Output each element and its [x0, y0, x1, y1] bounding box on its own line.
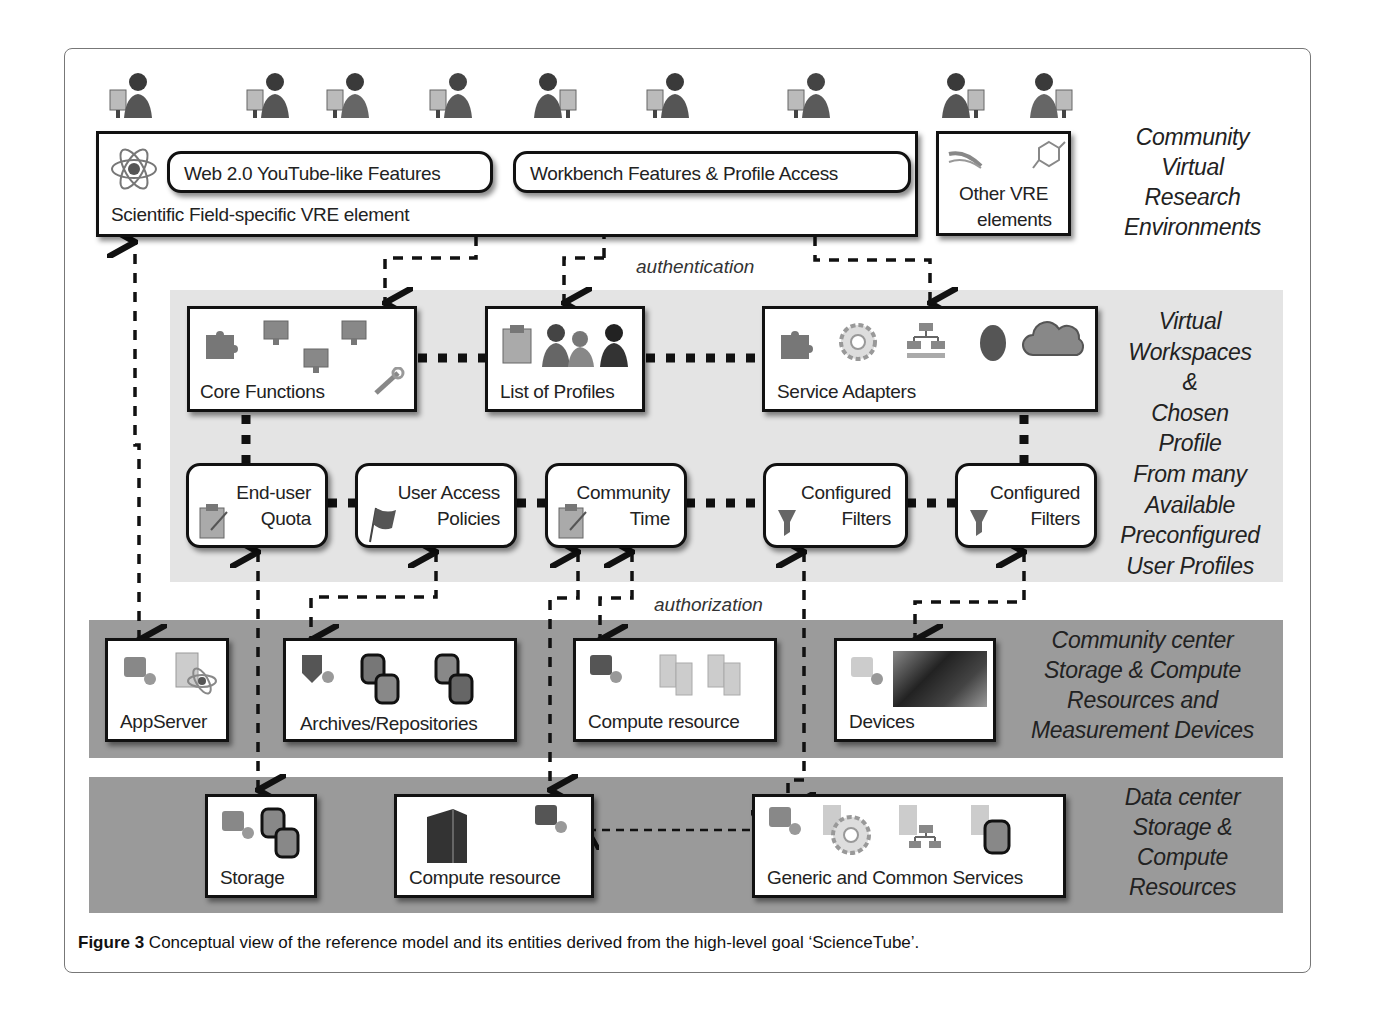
clipboard-icon — [556, 502, 590, 542]
monitor-icon — [340, 319, 370, 349]
puzzle-icon — [202, 325, 246, 361]
other-vre-line1: Other VRE — [959, 183, 1048, 205]
side-label-line: Storage & — [1090, 812, 1275, 842]
community-vre-side-label: Community Virtual Research Environments — [1100, 122, 1285, 242]
configured-filters-box-2[interactable]: Configured Filters — [955, 463, 1097, 548]
generic-common-services-box[interactable]: Generic and Common Services — [752, 794, 1066, 898]
figure-label: Figure 3 — [78, 933, 144, 952]
side-label-line: Storage & Compute — [1010, 655, 1275, 685]
community-time-box[interactable]: Community Time — [545, 463, 687, 548]
authentication-label: authentication — [636, 256, 754, 278]
archives-repositories-box[interactable]: Archives/Repositories — [283, 638, 517, 742]
side-label-line: User Profiles — [1100, 551, 1280, 582]
generic-common-services-label: Generic and Common Services — [767, 867, 1023, 889]
other-vre-line2: elements — [977, 209, 1052, 231]
shield-plugin-icon — [298, 651, 342, 689]
side-label-line: Measurement Devices — [1010, 715, 1275, 745]
end-user-quota-line2: Quota — [261, 508, 311, 530]
community-compute-resource-box[interactable]: Compute resource — [573, 638, 777, 742]
scientific-vre-element-box[interactable]: Web 2.0 YouTube-like Features Workbench … — [96, 131, 918, 237]
side-label-line: Virtual — [1100, 306, 1280, 337]
scientific-vre-element-label: Scientific Field-specific VRE element — [111, 204, 409, 226]
side-label-line: From many — [1100, 459, 1280, 490]
clipboard-icon — [500, 323, 536, 365]
user-access-policies-box[interactable]: User Access Policies — [355, 463, 517, 548]
side-label-line: Profile — [1100, 428, 1280, 459]
user-icon — [245, 70, 293, 120]
dna-icon — [947, 148, 983, 170]
side-label-line: Research — [1100, 182, 1285, 212]
end-user-quota-box[interactable]: End-user Quota — [186, 463, 328, 548]
server-plugin-icon — [120, 653, 160, 689]
user-icon — [530, 70, 578, 120]
server-tower-icon — [423, 807, 473, 865]
web20-features-label: Web 2.0 YouTube-like Features — [184, 163, 440, 185]
side-label-line: & — [1100, 367, 1280, 398]
funnel-icon — [776, 508, 798, 538]
server-plugin-icon — [765, 803, 805, 839]
list-of-profiles-label: List of Profiles — [500, 381, 615, 403]
configured-filters-1-line1: Configured — [801, 482, 891, 504]
community-time-line1: Community — [577, 482, 670, 504]
side-label-line: Resources and — [1010, 685, 1275, 715]
core-functions-box[interactable]: Core Functions — [187, 306, 417, 412]
other-vre-elements-box[interactable]: Other VRE elements — [936, 131, 1071, 236]
devices-label: Devices — [849, 711, 914, 733]
telescope-image — [893, 651, 987, 707]
virtual-workspaces-side-label: Virtual Workspaces & Chosen Profile From… — [1100, 306, 1280, 581]
user-icon — [938, 70, 986, 120]
server-cluster-icon — [658, 653, 698, 697]
funnel-icon — [968, 508, 990, 538]
side-label-line: Resources — [1090, 872, 1275, 902]
data-center-side-label: Data center Storage & Compute Resources — [1090, 782, 1275, 902]
core-functions-label: Core Functions — [200, 381, 325, 403]
server-plugin-icon — [218, 807, 258, 843]
server-plugin-icon — [531, 801, 571, 837]
community-time-line2: Time — [630, 508, 670, 530]
clipboard-icon — [197, 502, 231, 542]
workbench-features-box[interactable]: Workbench Features & Profile Access — [513, 151, 911, 193]
server-plugin-icon — [586, 651, 630, 689]
monitor-icon — [262, 319, 292, 349]
database-icon — [432, 651, 478, 707]
atom-icon — [109, 144, 159, 194]
side-label-line: Workspaces — [1100, 337, 1280, 368]
side-label-line: Community — [1100, 122, 1285, 152]
monitor-icon — [302, 347, 332, 377]
user-icon — [786, 70, 834, 120]
device-plugin-icon — [847, 653, 891, 691]
configured-filters-2-line2: Filters — [1030, 508, 1080, 530]
tools-icon — [372, 367, 406, 397]
database-icon — [258, 805, 304, 861]
side-label-line: Chosen — [1100, 398, 1280, 429]
datacenter-compute-resource-label: Compute resource — [409, 867, 561, 889]
side-label-line: Environments — [1100, 212, 1285, 242]
side-label-line: Virtual — [1100, 152, 1285, 182]
cloud-icon — [1021, 319, 1087, 363]
user-icon — [1026, 70, 1074, 120]
flag-icon — [366, 504, 400, 544]
user-access-policies-line2: Policies — [437, 508, 500, 530]
egg-icon — [977, 319, 1009, 365]
figure-caption: Figure 3 Conceptual view of the referenc… — [78, 933, 919, 953]
service-adapters-label: Service Adapters — [777, 381, 916, 403]
side-label-line: Community center — [1010, 625, 1275, 655]
devices-box[interactable]: Devices — [834, 638, 996, 742]
side-label-line: Compute — [1090, 842, 1275, 872]
user-icon — [428, 70, 476, 120]
appserver-box[interactable]: AppServer — [105, 638, 229, 742]
service-adapters-box[interactable]: Service Adapters — [762, 306, 1098, 412]
datacenter-compute-resource-box[interactable]: Compute resource — [394, 794, 594, 898]
configured-filters-box-1[interactable]: Configured Filters — [763, 463, 908, 548]
web20-features-box[interactable]: Web 2.0 YouTube-like Features — [167, 151, 493, 193]
puzzle-icon — [777, 325, 821, 361]
side-label-line: Preconfigured — [1100, 520, 1280, 551]
list-of-profiles-box[interactable]: List of Profiles — [485, 306, 645, 412]
user-icon — [325, 70, 373, 120]
appserver-label: AppServer — [120, 711, 207, 733]
storage-box[interactable]: Storage — [205, 794, 317, 898]
community-center-side-label: Community center Storage & Compute Resou… — [1010, 625, 1275, 745]
users-icon — [536, 319, 636, 369]
archives-repositories-label: Archives/Repositories — [300, 713, 477, 735]
configured-filters-1-line2: Filters — [841, 508, 891, 530]
